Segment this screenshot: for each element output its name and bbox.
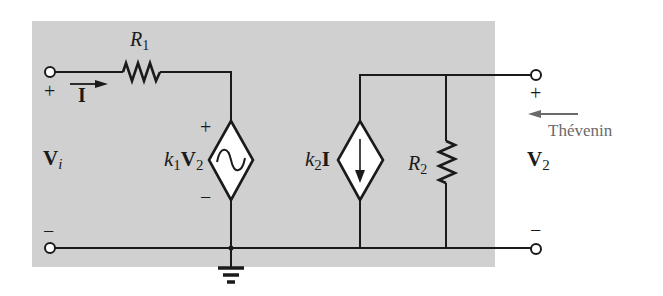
background-panel — [32, 21, 495, 267]
v2-label: V2 — [527, 147, 550, 173]
thevenin-label: Thévenin — [548, 121, 613, 140]
ground-icon — [218, 268, 244, 282]
output-terminal-bottom — [531, 244, 541, 254]
output-terminal-top — [531, 70, 541, 80]
vsrc-minus-sign: − — [200, 186, 211, 208]
output-plus-sign: + — [530, 82, 541, 104]
vsrc-plus-sign: + — [200, 116, 211, 138]
output-minus-sign: − — [530, 219, 541, 241]
input-minus-sign: − — [43, 220, 54, 242]
input-terminal-top — [45, 67, 55, 77]
input-terminal-bottom — [45, 243, 55, 253]
junction-dot — [229, 246, 234, 251]
current-label: I — [78, 84, 86, 106]
circuit-diagram: R1 + I − Vi + − k1V2 k2I R2 + − V2 Théve… — [0, 0, 663, 296]
input-plus-sign: + — [44, 80, 55, 102]
thevenin-arrow-icon — [528, 110, 578, 118]
